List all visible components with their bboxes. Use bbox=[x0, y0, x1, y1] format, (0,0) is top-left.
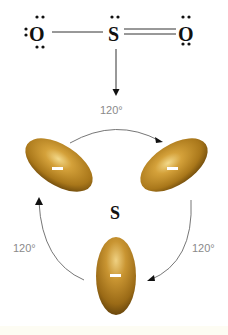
arrow-left-head bbox=[35, 197, 43, 205]
arrow-top-arc bbox=[70, 129, 160, 143]
angle-label-left: 120° bbox=[13, 242, 36, 254]
left-oxygen-lone-pairs bbox=[24, 15, 44, 48]
angle-label-right: 120° bbox=[192, 242, 215, 254]
down-arrow-head bbox=[113, 89, 120, 96]
angle-label-top: 120° bbox=[100, 104, 123, 116]
electron-domain-upper-right bbox=[131, 128, 217, 203]
arrow-left-arc bbox=[39, 202, 84, 280]
arrow-right-arc bbox=[150, 200, 191, 280]
lewis-structure-graphics bbox=[0, 0, 228, 335]
so2-diagram: O S O bbox=[0, 0, 228, 335]
electron-domain-bottom bbox=[96, 237, 136, 315]
arrow-top-head bbox=[155, 137, 163, 143]
bottom-edge-strip bbox=[0, 326, 228, 335]
arrow-right-head bbox=[147, 275, 155, 281]
electron-domain-upper-left bbox=[16, 128, 102, 203]
sulfur-lone-pair bbox=[110, 15, 119, 18]
right-oxygen-lone-pairs bbox=[181, 15, 190, 45]
center-sulfur-label: S bbox=[110, 203, 120, 224]
